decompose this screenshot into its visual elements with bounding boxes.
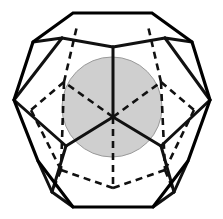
dodecahedron-diagram-svg (0, 0, 223, 219)
dodecahedron-figure (0, 0, 223, 219)
